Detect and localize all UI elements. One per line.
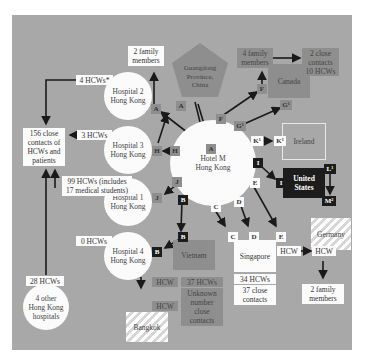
hospital-3-name: Hospital 3 — [110, 141, 145, 150]
cc-line2: contacts of — [27, 138, 60, 147]
tag-b-hospital4: B — [152, 247, 162, 257]
family-line1: 2 family — [132, 47, 160, 56]
singapore-hcw: HCW — [277, 246, 301, 256]
germany-family: 2 familymembers — [302, 284, 344, 304]
ca-f1: 4 family — [241, 49, 269, 58]
ca-c1: 2 close — [306, 49, 336, 58]
ireland-box: Ireland — [282, 123, 326, 160]
tag-b-hotel: B — [178, 195, 188, 205]
ca-f2: members — [241, 58, 269, 67]
tag-b-vietnam: B — [178, 232, 188, 242]
tag-d-hotel: D — [234, 197, 244, 207]
tag-f-hotel: F — [216, 114, 226, 124]
de-f1: 2 family — [309, 285, 337, 294]
tag-h-right: H — [170, 146, 180, 156]
close-contacts-box: 156 closecontacts ofHCWs andpatients — [23, 128, 65, 166]
tag-i-us: I — [276, 178, 286, 188]
other-hospitals-hcw-box: 28 HCWs — [26, 276, 64, 286]
tag-k-hotel: K¹ — [251, 136, 263, 146]
guangdong-line1: Guangdong — [184, 64, 217, 73]
germany-hcw: HCW — [312, 246, 336, 256]
cc-line3: HCWs and — [27, 147, 60, 156]
hotel-label: Hotel M — [195, 154, 230, 163]
tag-i-hotel: I — [253, 158, 263, 168]
singapore-contacts: 37 closecontacts — [234, 285, 276, 305]
canada-contacts: 2 closecontacts10 HCWs — [302, 48, 339, 76]
tag-c-singapore: C — [228, 232, 238, 242]
tag-a-hospital2: A — [151, 104, 161, 114]
tag-h-left: H — [152, 146, 162, 156]
tag-g-canada: G¹ — [280, 100, 292, 110]
other-hospitals-node: 4 otherHong Konghospitals — [23, 284, 69, 330]
ca-c3: 10 HCWs — [306, 67, 336, 76]
sg-c1: 37 close — [243, 286, 268, 295]
us-l2: States — [293, 183, 315, 192]
h1-hcw-line1: 99 HCWs (includes — [66, 177, 128, 186]
hospital-4-location: Hong Kong — [110, 256, 145, 265]
cc-line1: 156 close — [27, 129, 60, 138]
other-hospitals-line3: hospitals — [28, 312, 63, 321]
vn-c3: close — [187, 307, 217, 316]
bangkok-box: Bangkok — [126, 312, 168, 342]
vietnam-hcw-count: 37 HCWs — [181, 277, 223, 287]
vn-c4: contacts — [187, 316, 217, 325]
other-hospitals-line2: Hong Kong — [28, 303, 63, 312]
tag-f-canada: F — [257, 84, 267, 94]
tag-a-guangdong: A — [176, 101, 186, 111]
hospital-3-hcw-box: 3 HCWs — [77, 130, 112, 140]
tag-g-hotel: G¹ — [234, 121, 246, 131]
guangdong-line2: Province, — [184, 73, 217, 82]
de-f2: members — [309, 294, 337, 303]
hospital-3-location: Hong Kong — [110, 150, 145, 159]
us-l1: United — [293, 174, 315, 183]
hospital-2-name: Hospital 2 — [110, 87, 145, 96]
h1-hcw-line2: 17 medical students) — [66, 186, 128, 195]
hospital-1-location: Hong Kong — [110, 202, 145, 211]
tag-j-hospital1: J — [152, 193, 162, 203]
hotel-m-node: Hotel MHong Kong — [170, 120, 256, 206]
vietnam-hcw-a: HCW — [152, 277, 178, 287]
tag-m-us: M² — [322, 196, 336, 206]
vn-c1: Unknown — [187, 289, 217, 298]
vietnam-box: Vietnam — [173, 240, 215, 270]
ca-c2: contacts — [306, 58, 336, 67]
hotel-location: Hong Kong — [195, 163, 230, 172]
united-states-box: UnitedStates — [283, 168, 325, 198]
other-hospitals-line1: 4 other — [28, 294, 63, 303]
vn-c2: number — [187, 298, 217, 307]
singapore-box: Singapore — [234, 240, 276, 272]
cc-line4: patients — [27, 156, 60, 165]
sg-c2: contacts — [243, 295, 268, 304]
hospital-2-location: Hong Kong — [110, 96, 145, 105]
hospital-2-hcw-box: 4 HCWs* — [76, 75, 113, 85]
hospital-1-hcw-box: 99 HCWs (includes17 medical students) — [62, 176, 132, 196]
guangdong-line3: China — [184, 81, 217, 90]
tag-j-hotel: J — [172, 177, 182, 187]
hospital-4-hcw-box: 0 HCWs — [76, 236, 112, 246]
tag-e-hotel: E — [250, 178, 260, 188]
tag-k-ireland: K¹ — [274, 136, 286, 146]
guangdong-label: GuangdongProvince,China — [175, 62, 225, 92]
tag-l-us: L¹ — [324, 164, 336, 174]
singapore-hcws: 34 HCWs — [234, 274, 276, 284]
vietnam-hcw-b: HCW — [152, 301, 178, 311]
vietnam-contacts-box: Unknownnumberclosecontacts — [181, 288, 223, 326]
tag-d-singapore: D — [249, 232, 259, 242]
tag-c-hotel: C — [211, 202, 221, 212]
tag-e-singapore: E — [276, 232, 286, 242]
canada-family: 4 familymembers — [237, 48, 273, 68]
family-line2: members — [132, 56, 160, 65]
hospital-2-family-box: 2 familymembers — [128, 46, 164, 66]
tag-a-hotel: A — [206, 144, 216, 154]
hospital-4-name: Hospital 4 — [110, 247, 145, 256]
